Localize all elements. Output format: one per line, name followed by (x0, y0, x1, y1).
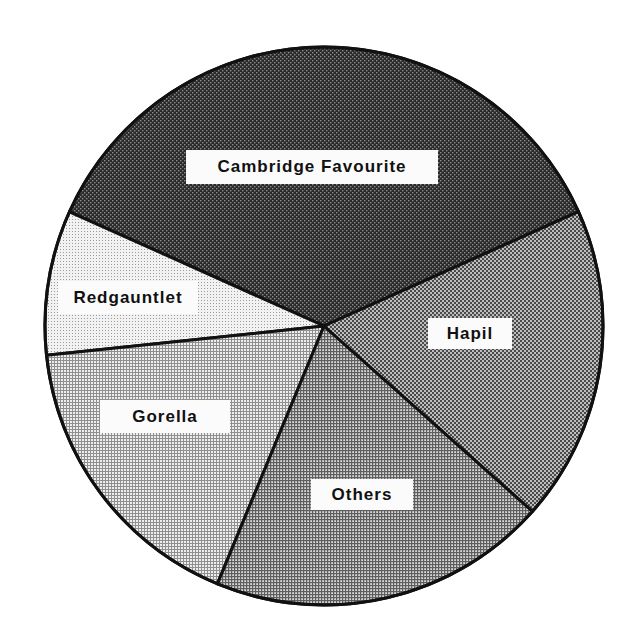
label-gorella: Gorella (100, 400, 230, 433)
pie-slices (45, 47, 603, 605)
label-hapil: Hapil (428, 318, 512, 349)
pie-chart: Cambridge Favourite Redgauntlet Hapil Go… (0, 0, 642, 636)
label-redgauntlet: Redgauntlet (58, 281, 198, 314)
label-cambridge-favourite: Cambridge Favourite (186, 150, 438, 184)
label-others: Others (311, 479, 413, 510)
pie-chart-canvas (0, 0, 642, 636)
